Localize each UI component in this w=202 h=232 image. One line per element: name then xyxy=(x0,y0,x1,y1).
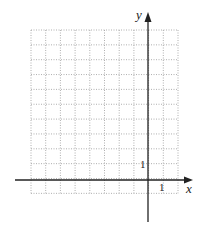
y-tick-label: 1 xyxy=(140,159,146,170)
grid-lines xyxy=(31,30,178,193)
x-axis-label: x xyxy=(186,182,192,195)
coordinate-grid xyxy=(0,0,202,232)
y-axis-label: y xyxy=(136,8,142,21)
x-tick-label: 1 xyxy=(159,182,165,193)
y-axis-arrow-icon xyxy=(145,12,152,22)
